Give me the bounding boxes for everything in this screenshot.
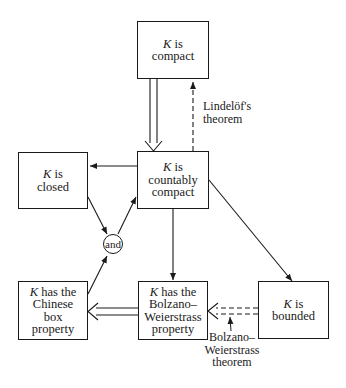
node-text: property bbox=[32, 322, 74, 336]
node-text: bounded bbox=[272, 309, 315, 323]
double-arrow-bw-to-chinese bbox=[88, 303, 138, 320]
arrow-chinese-to-and bbox=[88, 256, 107, 294]
node-bolzano-weierstrass: K has the Bolzano– Weierstrass property bbox=[138, 281, 208, 340]
arrow-countably-to-bounded bbox=[209, 180, 292, 281]
double-arrow-compact-to-countably bbox=[145, 79, 162, 151]
node-and: and bbox=[103, 234, 123, 254]
arrow-and-to-countably bbox=[118, 197, 136, 234]
node-closed: K is closed bbox=[18, 152, 88, 209]
label-lindelof-theorem: Lindelöf's theorem bbox=[203, 100, 251, 125]
node-bounded: K is bounded bbox=[258, 281, 329, 339]
node-chinese-box: K has the Chinese box property bbox=[18, 281, 88, 340]
node-text: property bbox=[152, 322, 194, 336]
label-text: theorem bbox=[212, 355, 251, 369]
node-text: closed bbox=[37, 180, 69, 194]
and-text: and bbox=[105, 238, 121, 250]
node-countably-compact: K is countably compact bbox=[137, 151, 209, 209]
arrow-closed-to-and bbox=[88, 197, 107, 234]
node-text: compact bbox=[152, 185, 194, 199]
double-dashed-arrow-bounded-to-bw bbox=[208, 303, 258, 319]
pointer-bw-theorem bbox=[230, 317, 231, 331]
label-bw-theorem: Bolzano– Weierstrass theorem bbox=[200, 331, 264, 369]
node-compact: K is compact bbox=[137, 21, 209, 79]
label-text: theorem bbox=[203, 112, 242, 126]
node-text: compact bbox=[152, 49, 194, 63]
